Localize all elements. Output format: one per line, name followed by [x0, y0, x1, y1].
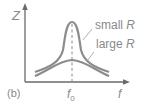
- f0-label: f0: [67, 88, 75, 103]
- y-axis-arrow-icon: [22, 3, 27, 10]
- label-large-r-text: large: [96, 37, 126, 51]
- label-small-r: small R: [95, 19, 135, 31]
- label-small-r-text: small: [95, 18, 126, 32]
- leader-small-r: [83, 29, 92, 40]
- label-large-r-var: R: [126, 37, 135, 51]
- panel-label: (b): [7, 88, 20, 99]
- leader-large-r: [87, 52, 94, 61]
- x-axis-arrow-icon: [123, 79, 130, 84]
- y-axis-label: Z: [12, 9, 20, 22]
- label-small-r-var: R: [126, 18, 135, 32]
- f0-label-subscript: 0: [70, 94, 74, 103]
- x-axis-label: f: [118, 88, 121, 100]
- label-large-r: large R: [96, 38, 135, 50]
